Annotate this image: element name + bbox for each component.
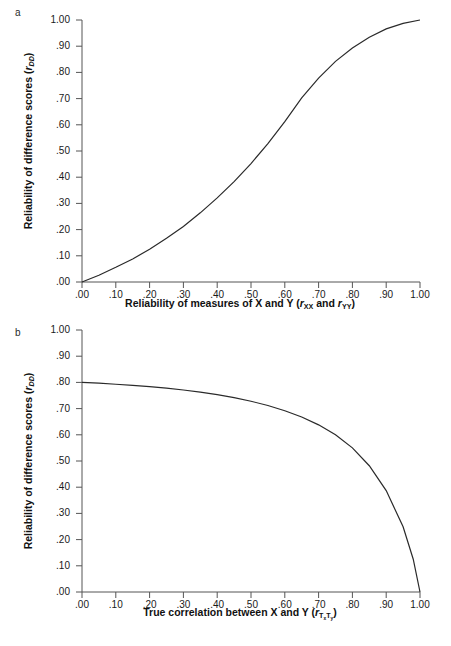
- y-tick-label: .30: [38, 507, 70, 518]
- y-tick-label: .80: [38, 376, 70, 387]
- y-tick-label: .40: [38, 171, 70, 182]
- y-tick-label: 1.00: [38, 324, 70, 335]
- y-tick-label: .50: [38, 145, 70, 156]
- y-tick-label: .70: [38, 93, 70, 104]
- y-tick-label: .90: [38, 40, 70, 51]
- y-tick-label: .10: [38, 560, 70, 571]
- y-tick-label: .20: [38, 224, 70, 235]
- y-tick-label: .90: [38, 350, 70, 361]
- x-title-sub-1: XX: [304, 303, 314, 311]
- panel-b: b Reliability of difference scores (rDD): [0, 320, 451, 646]
- y-tick-label: .50: [38, 455, 70, 466]
- panel-a-x-ticks: [82, 282, 420, 288]
- panel-a-x-axis-title: Reliability of measures of X and Y (rXX …: [60, 297, 420, 309]
- panel-b-y-ticks: [76, 330, 82, 592]
- panel-a-data-curve: [82, 20, 420, 282]
- x-title-suffix: ): [351, 297, 355, 309]
- x-title-mid: and: [313, 297, 338, 309]
- y-tick-label: .00: [38, 276, 70, 287]
- panel-b-data-curve: [82, 382, 420, 592]
- y-tick-label: 1.00: [38, 14, 70, 25]
- x-title-prefix: Reliability of measures of X and Y (: [125, 297, 300, 309]
- y-tick-label: .30: [38, 197, 70, 208]
- panel-b-x-axis-title: True correlation between X and Y (rTxTy): [60, 606, 420, 618]
- x-title-prefix: True correlation between X and Y (: [143, 606, 315, 618]
- y-tick-label: .20: [38, 534, 70, 545]
- x-title-sub-1: TxTy: [319, 612, 333, 620]
- y-tick-label: .80: [38, 66, 70, 77]
- x-title-sub-2: YY: [342, 303, 352, 311]
- panel-a-y-ticks: [76, 20, 82, 282]
- panel-b-x-ticks: [82, 592, 420, 598]
- y-tick-label: .70: [38, 403, 70, 414]
- y-tick-label: .10: [38, 250, 70, 261]
- y-tick-label: .60: [38, 119, 70, 130]
- panel-a: a Reliability of difference scores (rDD): [0, 0, 451, 320]
- x-title-suffix: ): [333, 606, 337, 618]
- y-tick-label: .40: [38, 481, 70, 492]
- y-tick-label: .60: [38, 429, 70, 440]
- y-tick-label: .00: [38, 586, 70, 597]
